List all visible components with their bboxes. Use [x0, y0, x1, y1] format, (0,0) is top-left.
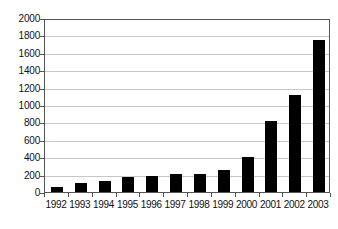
x-axis-tick-label: 2002	[282, 199, 306, 211]
y-axis-tick-label: 1600	[2, 49, 40, 59]
x-axis-tick-mark	[44, 193, 45, 197]
bar-slot	[117, 20, 141, 192]
x-axis-tick-mark	[235, 193, 236, 197]
y-axis-tick-mark	[40, 193, 44, 194]
y-axis-tick-label: 2000	[2, 14, 40, 24]
y-axis-tick-mark	[40, 19, 44, 20]
x-axis-ticks	[44, 193, 330, 198]
x-axis-tick-label: 1992	[44, 199, 68, 211]
x-axis-tick-mark	[259, 193, 260, 197]
x-axis-tick-label: 2003	[306, 199, 330, 211]
x-axis-tick-label: 1993	[68, 199, 92, 211]
x-axis-tick-label: 1994	[92, 199, 116, 211]
bar-1996[interactable]	[146, 176, 158, 192]
bar-slot	[260, 20, 284, 192]
x-axis-tick-label: 1998	[187, 199, 211, 211]
y-axis-tick-label: 600	[2, 136, 40, 146]
y-axis-tick-mark	[40, 71, 44, 72]
x-axis-tick-label: 1997	[163, 199, 187, 211]
x-axis-tick-label: 2000	[235, 199, 259, 211]
x-axis: 1992199319941995199619971998199920002001…	[44, 199, 330, 215]
bar-1992[interactable]	[51, 187, 63, 192]
x-axis-tick-label: 2001	[259, 199, 283, 211]
y-axis-tick-mark	[40, 141, 44, 142]
y-axis-tick-label: 800	[2, 118, 40, 128]
x-axis-tick-mark	[330, 193, 331, 197]
y-axis-tick-mark	[40, 158, 44, 159]
bar-slot	[212, 20, 236, 192]
bar-1993[interactable]	[75, 183, 87, 192]
bar-slot	[188, 20, 212, 192]
bars-group	[45, 20, 329, 192]
bar-1994[interactable]	[99, 181, 111, 192]
y-axis-tick-mark	[40, 123, 44, 124]
y-axis-tick-label: 1200	[2, 84, 40, 94]
y-axis-tick-mark	[40, 89, 44, 90]
y-axis-tick-mark	[40, 36, 44, 37]
bar-slot	[164, 20, 188, 192]
x-axis-tick-label: 1999	[211, 199, 235, 211]
bar-chart: 2000180016001400120010008006004002000 19…	[0, 0, 338, 229]
x-axis-tick-mark	[68, 193, 69, 197]
x-axis-tick-mark	[139, 193, 140, 197]
x-axis-tick-mark	[211, 193, 212, 197]
y-axis-tick-label: 0	[2, 188, 40, 198]
bar-slot	[236, 20, 260, 192]
x-axis-tick-mark	[116, 193, 117, 197]
x-axis-tick-mark	[282, 193, 283, 197]
y-axis-tick-label: 200	[2, 171, 40, 181]
bar-slot	[45, 20, 69, 192]
y-axis-tick-label: 400	[2, 153, 40, 163]
bar-1999[interactable]	[218, 170, 230, 192]
x-axis-tick-mark	[163, 193, 164, 197]
y-axis-tick-label: 1800	[2, 31, 40, 41]
bar-1998[interactable]	[194, 174, 206, 192]
x-axis-tick-mark	[187, 193, 188, 197]
x-axis-tick-mark	[92, 193, 93, 197]
bar-slot	[307, 20, 331, 192]
bar-2002[interactable]	[289, 95, 301, 192]
y-axis: 2000180016001400120010008006004002000	[0, 0, 40, 229]
x-axis-tick-label: 1996	[139, 199, 163, 211]
y-axis-tick-mark	[40, 176, 44, 177]
bar-2003[interactable]	[313, 40, 325, 192]
bar-slot	[69, 20, 93, 192]
bar-1995[interactable]	[122, 177, 134, 192]
y-axis-tick-mark	[40, 54, 44, 55]
plot-area	[44, 19, 330, 193]
bar-1997[interactable]	[170, 174, 182, 192]
x-axis-tick-label: 1995	[116, 199, 140, 211]
bar-slot	[140, 20, 164, 192]
y-axis-tick-mark	[40, 106, 44, 107]
y-axis-tick-label: 1400	[2, 66, 40, 76]
bar-slot	[283, 20, 307, 192]
y-axis-tick-label: 1000	[2, 101, 40, 111]
x-axis-tick-mark	[306, 193, 307, 197]
bar-slot	[93, 20, 117, 192]
bar-2000[interactable]	[242, 157, 254, 192]
bar-2001[interactable]	[265, 121, 277, 192]
